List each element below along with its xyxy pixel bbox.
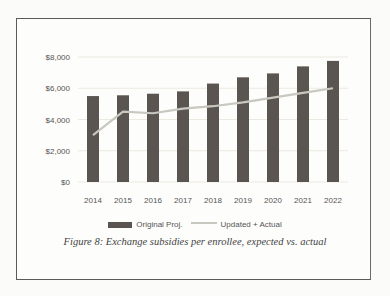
x-tick-label: 2014: [84, 196, 102, 205]
y-tick-label: $4,000: [46, 116, 71, 125]
bar-original-proj: [207, 84, 219, 182]
x-tick-label: 2015: [114, 196, 132, 205]
chart-legend: Original Proj. Updated + Actual: [0, 220, 390, 229]
x-tick-label: 2021: [294, 196, 312, 205]
x-tick-label: 2018: [204, 196, 222, 205]
x-tick-label: 2017: [174, 196, 192, 205]
legend-label-updated: Updated + Actual: [221, 220, 282, 229]
y-tick-label: $0: [61, 178, 70, 187]
figure-caption: Figure 8: Exchange subsidies per enrolle…: [0, 236, 390, 247]
bar-original-proj: [267, 73, 279, 182]
legend-item-original: Original Proj.: [108, 220, 182, 229]
bar-original-proj: [177, 91, 189, 182]
bar-original-proj: [237, 77, 249, 182]
legend-label-original: Original Proj.: [136, 220, 182, 229]
x-tick-label: 2022: [324, 196, 342, 205]
bar-original-proj: [117, 95, 129, 182]
x-tick-label: 2020: [264, 196, 282, 205]
y-tick-label: $2,000: [46, 147, 71, 156]
bar-original-proj: [327, 61, 339, 182]
x-tick-label: 2019: [234, 196, 252, 205]
bar-swatch-icon: [108, 222, 132, 228]
legend-item-updated: Updated + Actual: [191, 220, 282, 229]
y-tick-label: $6,000: [46, 84, 71, 93]
bar-original-proj: [147, 94, 159, 182]
line-swatch-icon: [191, 222, 217, 224]
x-tick-label: 2016: [144, 196, 162, 205]
y-tick-label: $8,000: [46, 53, 71, 62]
chart-plot: $0$2,000$4,000$6,000$8,00020142015201620…: [0, 0, 390, 296]
bar-original-proj: [87, 96, 99, 182]
bar-original-proj: [297, 66, 309, 182]
